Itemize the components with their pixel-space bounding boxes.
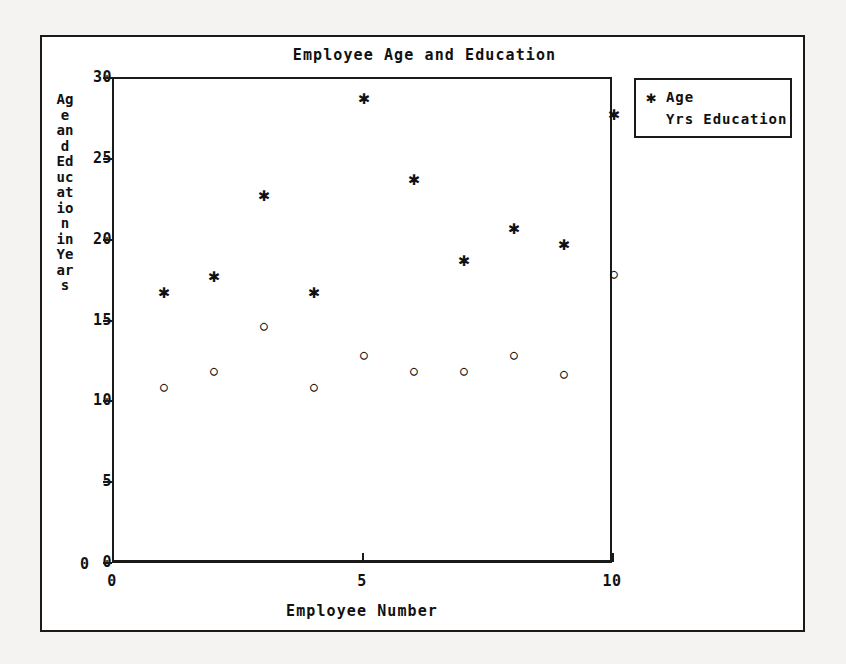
legend-label-yrs-education: Yrs Education xyxy=(666,111,787,127)
y-tick-mark xyxy=(103,562,112,564)
y-tick-mark xyxy=(103,158,112,160)
data-point-asterisk-3: ✱ xyxy=(257,185,271,199)
data-point-circle-10: ○ xyxy=(608,267,620,279)
data-point-circle-1: ○ xyxy=(158,380,170,392)
data-point-circle-9: ○ xyxy=(558,367,570,379)
y-tick-mark xyxy=(103,481,112,483)
data-point-asterisk-7: ✱ xyxy=(457,250,471,264)
x-tick-mark xyxy=(612,553,614,562)
y-axis-title: Age and Education in Years xyxy=(54,92,76,294)
data-point-asterisk-10: ✱ xyxy=(607,104,621,118)
chart-legend: ✱ Age Yrs Education xyxy=(634,78,792,138)
data-point-circle-6: ○ xyxy=(408,364,420,376)
legend-item-age: ✱ Age xyxy=(646,89,694,105)
x-tick-label: 0 xyxy=(107,572,117,590)
x-tick-label: 10 xyxy=(602,572,621,590)
data-point-asterisk-9: ✱ xyxy=(557,234,571,248)
chart-title: Employee Age and Education xyxy=(42,46,807,64)
data-point-circle-7: ○ xyxy=(458,364,470,376)
y-tick-mark xyxy=(103,77,112,79)
y-tick-mark xyxy=(103,239,112,241)
data-point-asterisk-5: ✱ xyxy=(357,88,371,102)
data-point-circle-3: ○ xyxy=(258,319,270,331)
legend-item-yrs-education: Yrs Education xyxy=(646,111,787,127)
plot-frame: ✱✱✱✱✱✱✱✱✱✱○○○○○○○○○○ xyxy=(112,77,612,562)
data-point-circle-2: ○ xyxy=(208,364,220,376)
y-tick-mark xyxy=(103,320,112,322)
data-point-asterisk-2: ✱ xyxy=(207,266,221,280)
legend-label-age: Age xyxy=(666,89,694,105)
chart-figure: Employee Age and Education Age and Educa… xyxy=(40,35,805,632)
plot-area: ✱✱✱✱✱✱✱✱✱✱○○○○○○○○○○ xyxy=(114,79,610,560)
x-tick-label: 5 xyxy=(357,572,367,590)
data-point-circle-4: ○ xyxy=(308,380,320,392)
data-point-circle-8: ○ xyxy=(508,348,520,360)
asterisk-marker-icon: ✱ xyxy=(646,90,657,104)
y-tick-mark xyxy=(103,400,112,402)
data-point-asterisk-4: ✱ xyxy=(307,282,321,296)
data-point-circle-5: ○ xyxy=(358,348,370,360)
data-point-asterisk-8: ✱ xyxy=(507,218,521,232)
data-point-asterisk-1: ✱ xyxy=(157,282,171,296)
axis-origin-label: 0 xyxy=(80,555,89,573)
data-point-asterisk-6: ✱ xyxy=(407,169,421,183)
x-axis-line xyxy=(112,561,612,563)
x-axis-title: Employee Number xyxy=(112,602,612,620)
